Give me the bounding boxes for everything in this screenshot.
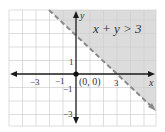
inequality-graph: x + y > 3 y x (0, 0) −3 −1 3 1 −1 −3 bbox=[0, 0, 165, 132]
inequality-label: x + y > 3 bbox=[92, 21, 142, 36]
y-axis-label: y bbox=[79, 10, 85, 21]
origin-point bbox=[73, 71, 78, 76]
x-tick-neg3: −3 bbox=[30, 77, 40, 87]
origin-label: (0, 0) bbox=[79, 76, 101, 88]
x-axis-left-arrow bbox=[10, 71, 17, 77]
x-tick-3: 3 bbox=[114, 78, 119, 88]
y-tick-neg3: −3 bbox=[63, 109, 73, 119]
y-tick-neg1: −1 bbox=[63, 84, 73, 94]
y-tick-1: 1 bbox=[69, 57, 74, 67]
y-axis-down-arrow bbox=[73, 117, 79, 124]
x-axis-label: x bbox=[148, 77, 154, 88]
